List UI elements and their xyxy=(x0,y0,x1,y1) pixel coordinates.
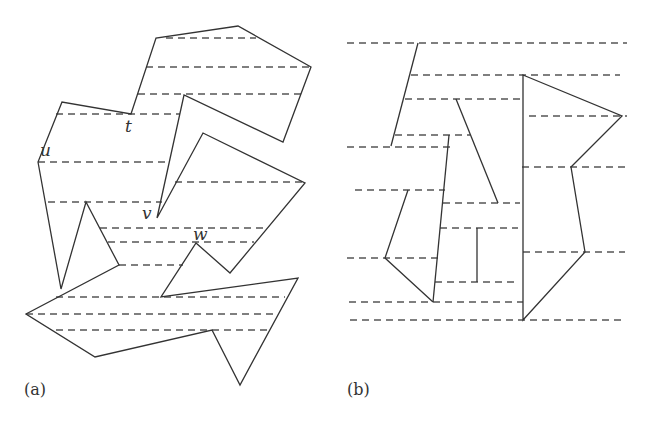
panel-b-trapezoid-lines xyxy=(347,43,627,320)
panel-a-polygon xyxy=(26,26,311,385)
edge-segment xyxy=(456,99,498,203)
vertex-label-u: u xyxy=(40,140,51,160)
vertex-label-w: w xyxy=(193,224,208,244)
panel-b-caption: (b) xyxy=(347,380,370,399)
panel-b-segments xyxy=(385,43,622,320)
panel-a-caption: (a) xyxy=(24,380,46,399)
edge-segment xyxy=(433,135,449,302)
edge-segment xyxy=(385,190,433,302)
vertex-label-t: t xyxy=(125,116,132,136)
edge-segment xyxy=(391,43,418,146)
polygon-outline xyxy=(523,75,622,320)
polygon-outline xyxy=(26,26,311,385)
figure-canvas xyxy=(0,0,645,424)
vertex-label-v: v xyxy=(142,203,152,223)
